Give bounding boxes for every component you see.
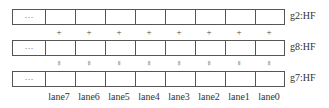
lane4-cell (135, 10, 165, 24)
ellipsis-cell: ··· (13, 72, 45, 86)
plus-operator: + (104, 27, 134, 37)
plus-operator: + (134, 27, 164, 37)
lane1-cell (225, 72, 255, 86)
lane-label: lane3 (164, 91, 194, 102)
register-label-g8: g8:HF (290, 41, 316, 52)
plus-operator: + (44, 27, 74, 37)
lane0-cell (255, 10, 285, 24)
lane6-cell (75, 72, 105, 86)
lane3-cell (165, 10, 195, 24)
lane-label: lane4 (134, 91, 164, 102)
lane-label: lane6 (74, 91, 104, 102)
lane7-cell (45, 72, 75, 86)
lane6-cell (75, 10, 105, 24)
lane-label: lane2 (194, 91, 224, 102)
plus-operator: + (194, 27, 224, 37)
lane2-cell (195, 72, 225, 86)
lane-label: lane5 (104, 91, 134, 102)
ellipsis-cell: ··· (13, 41, 45, 55)
lane1-cell (225, 10, 255, 24)
lane0-cell (255, 72, 285, 86)
plus-operator: + (164, 27, 194, 37)
register-g7: ··· (12, 71, 285, 87)
lane5-cell (105, 72, 135, 86)
lane7-cell (45, 10, 75, 24)
ellipsis-cell: ··· (13, 10, 45, 24)
lane4-cell (135, 72, 165, 86)
plus-operator: + (224, 27, 254, 37)
plus-operator: + (254, 27, 284, 37)
register-label-g2: g2:HF (290, 10, 316, 21)
register-g2: ··· (12, 9, 285, 25)
lane5-cell (105, 10, 135, 24)
lane3-cell (165, 72, 195, 86)
lane-label: lane0 (254, 91, 284, 102)
lane-label: lane7 (44, 91, 74, 102)
plus-operator: + (74, 27, 104, 37)
lane-label: lane1 (224, 91, 254, 102)
lane2-cell (195, 10, 225, 24)
register-label-g7: g7:HF (290, 72, 316, 83)
